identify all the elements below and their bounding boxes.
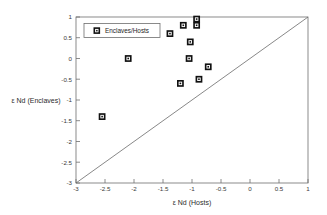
data-point — [196, 76, 203, 83]
data-point — [187, 39, 194, 46]
x-tick-label: -3 — [73, 185, 79, 192]
x-tick-label: -0.5 — [216, 185, 227, 192]
legend-label-enclaves-hosts: Enclaves/Hosts — [105, 27, 149, 34]
y-tick-label: -0.5 — [61, 76, 72, 83]
scatter-plot-figure: -3 -2.5 -2 -1.5 -1 -0.5 0 0.5 1 -3 -2.5 … — [0, 0, 327, 215]
x-tick-labels: -3 -2.5 -2 -1.5 -1 -0.5 0 0.5 1 — [73, 185, 310, 192]
x-tick-label: -2.5 — [100, 185, 111, 192]
y-tick-label: -2.5 — [61, 159, 72, 166]
x-tick-label: 1 — [306, 185, 310, 192]
y-axis-ticks — [76, 17, 80, 183]
data-point — [193, 16, 200, 23]
x-tick-label: -2 — [131, 185, 137, 192]
data-point — [186, 55, 193, 62]
legend-marker-enclaves-hosts — [94, 27, 101, 34]
x-axis-ticks — [76, 179, 308, 183]
data-point — [205, 63, 212, 70]
data-point — [99, 113, 106, 120]
data-point — [177, 80, 184, 87]
chart-legend[interactable]: Enclaves/Hosts — [84, 24, 160, 38]
y-tick-label: 1 — [69, 13, 73, 20]
y-tick-labels: -3 -2.5 -2 -1.5 -1 -0.5 0 0.5 1 — [61, 13, 72, 186]
y-tick-label: 0.5 — [63, 34, 72, 41]
chart-svg: -3 -2.5 -2 -1.5 -1 -0.5 0 0.5 1 -3 -2.5 … — [0, 0, 327, 215]
y-tick-label: -1.5 — [61, 117, 72, 124]
x-tick-label: 0 — [248, 185, 252, 192]
y-axis-title: ε Nd (Enclaves) — [11, 97, 60, 105]
y-tick-label: -2 — [66, 138, 72, 145]
y-tick-label: -1 — [66, 96, 72, 103]
x-tick-label: -1.5 — [158, 185, 169, 192]
x-axis-title: ε Nd (Hosts) — [173, 199, 212, 207]
data-point — [167, 30, 174, 37]
x-tick-label: 0.5 — [275, 185, 284, 192]
y-tick-label: 0 — [69, 55, 73, 62]
data-point — [125, 55, 132, 62]
y-tick-label: -3 — [66, 179, 72, 186]
data-point — [193, 22, 200, 29]
x-tick-label: -1 — [189, 185, 195, 192]
data-point — [180, 22, 187, 29]
